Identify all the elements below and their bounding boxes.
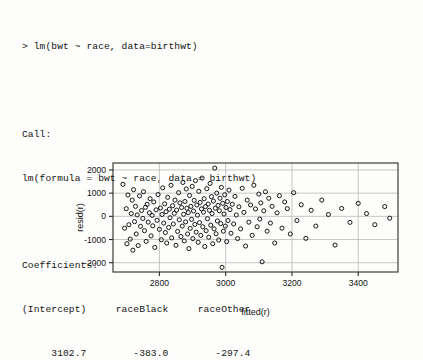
y-axis-ticks: -2000-1000010002000	[84, 165, 113, 268]
plot-data-points	[121, 166, 392, 269]
y-axis-label: resid(r)	[75, 203, 85, 232]
x-tick-label: 2800	[150, 278, 169, 288]
plot-frame	[113, 163, 398, 272]
residual-plot-svg: 2800300032003400 -2000-1000010002000 fit…	[0, 148, 423, 320]
console-line-prompt: > lm(bwt ~ race, data=birthwt)	[22, 40, 412, 55]
x-tick-label: 3400	[349, 278, 368, 288]
console-line-blank-1	[22, 84, 412, 99]
y-tick-label: 2000	[87, 165, 106, 175]
y-tick-label: -2000	[84, 258, 106, 268]
console-line-coefficient-values: 3102.7 -383.0 -297.4	[22, 347, 412, 360]
y-tick-label: -1000	[84, 235, 106, 245]
x-axis-ticks: 2800300032003400	[150, 272, 368, 288]
y-tick-label: 1000	[87, 188, 106, 198]
residual-plot-figure: 2800300032003400 -2000-1000010002000 fit…	[0, 148, 423, 320]
x-axis-label: fitted(r)	[241, 307, 270, 317]
x-tick-label: 3200	[282, 278, 301, 288]
plot-gridlines	[113, 163, 398, 272]
console-line-call-header: Call:	[22, 128, 412, 143]
y-tick-label: 0	[101, 211, 106, 221]
x-tick-label: 3000	[216, 278, 235, 288]
